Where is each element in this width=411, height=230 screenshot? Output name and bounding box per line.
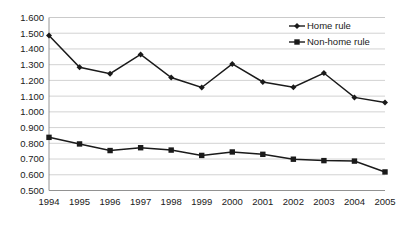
x-axis-tick-label: 1997 xyxy=(130,196,151,207)
y-axis-tick-label: 1.400 xyxy=(20,43,44,54)
y-axis-tick-label: 1.300 xyxy=(20,59,44,70)
x-axis-tick-label: 2003 xyxy=(313,196,334,207)
y-axis-tick-label: 1.100 xyxy=(20,91,44,102)
y-axis-tick-label: 0.500 xyxy=(20,185,44,196)
data-point xyxy=(382,169,387,174)
legend: Home ruleNon-home rule xyxy=(289,20,370,47)
x-axis-tick-label: 1994 xyxy=(38,196,59,207)
data-point xyxy=(291,157,296,162)
legend-label: Home rule xyxy=(307,20,351,31)
y-axis-tick-label: 0.700 xyxy=(20,153,44,164)
x-axis-tick-label: 1999 xyxy=(191,196,212,207)
line-chart: 1.6001.5001.4001.3001.2001.1001.0000.900… xyxy=(0,0,411,230)
data-point xyxy=(290,84,296,90)
y-axis-tick-label: 1.600 xyxy=(20,12,44,23)
y-axis-tick-label: 1.000 xyxy=(20,106,44,117)
series-line xyxy=(49,137,385,172)
x-axis-tick-label: 2001 xyxy=(252,196,273,207)
x-axis-tick-label: 2005 xyxy=(374,196,395,207)
chart-canvas: 1.6001.5001.4001.3001.2001.1001.0000.900… xyxy=(0,0,411,230)
x-axis-tick-label: 1998 xyxy=(161,196,182,207)
data-point xyxy=(138,145,143,150)
y-axis-tick-label: 0.800 xyxy=(20,138,44,149)
data-point xyxy=(107,148,112,153)
y-axis-tick-label: 0.600 xyxy=(20,169,44,180)
x-axis-tick-label: 1995 xyxy=(69,196,90,207)
x-axis-tick-label: 1996 xyxy=(100,196,121,207)
legend-marker xyxy=(294,39,299,44)
data-point xyxy=(230,149,235,154)
x-axis-labels-group: 1994199519961997199819992000200120022003… xyxy=(38,196,395,207)
data-point xyxy=(77,141,82,146)
x-axis-tick-label: 2000 xyxy=(222,196,243,207)
y-axis-tick-label: 1.200 xyxy=(20,75,44,86)
legend-marker xyxy=(294,23,300,29)
data-point xyxy=(199,153,204,158)
data-point xyxy=(46,135,51,140)
data-point xyxy=(321,158,326,163)
y-axis-tick-label: 1.500 xyxy=(20,28,44,39)
data-point xyxy=(260,152,265,157)
legend-label: Non-home rule xyxy=(307,36,370,47)
data-point xyxy=(168,147,173,152)
data-point xyxy=(352,158,357,163)
x-axis-tick-label: 2004 xyxy=(344,196,365,207)
series-2 xyxy=(46,135,387,175)
x-axis-tick-label: 2002 xyxy=(283,196,304,207)
y-axis-tick-label: 0.900 xyxy=(20,122,44,133)
data-point xyxy=(382,99,388,105)
